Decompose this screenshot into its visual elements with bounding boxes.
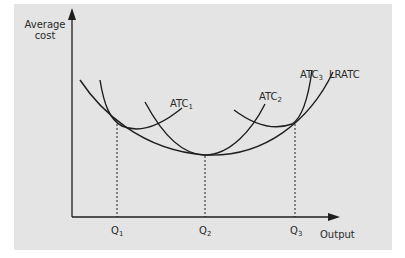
atc2-label: ATC2	[259, 91, 282, 106]
q2-tick-label: Q2	[199, 225, 211, 240]
q3-tick-label: Q3	[290, 225, 302, 240]
atc2-curve	[145, 102, 265, 155]
y-axis-label-line1: Average	[22, 19, 68, 30]
y-axis-label-line2: cost	[22, 30, 68, 41]
atc1-label: ATC1	[170, 98, 193, 113]
x-axis-arrow-icon	[328, 213, 340, 221]
x-axis-label: Output	[320, 229, 355, 240]
y-axis-arrow-icon	[68, 8, 76, 20]
atc3-label: ATC3	[300, 69, 323, 84]
lratc-curve	[80, 72, 333, 155]
lratc-label: LRATC	[329, 69, 360, 80]
y-axis-label: Average cost	[22, 19, 68, 41]
q1-tick-label: Q1	[111, 225, 123, 240]
